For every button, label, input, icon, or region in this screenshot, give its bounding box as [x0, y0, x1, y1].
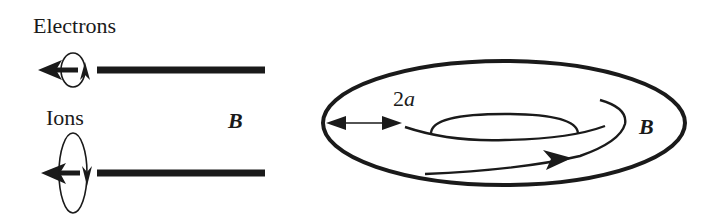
arrow-right-icon: [382, 116, 402, 130]
electron-field-line: [38, 53, 265, 87]
diagram-canvas: Electrons Ions B 2a: [0, 0, 711, 222]
arrow-left-icon: [326, 116, 346, 130]
minor-radius-dimension: 2a: [326, 86, 415, 130]
field-direction-arrow-icon: [543, 150, 572, 170]
torus-hole-upper-arc: [431, 114, 578, 133]
field-label-torus: B: [638, 114, 654, 139]
ion-field-line: [41, 133, 265, 213]
ions-label: Ions: [46, 105, 84, 130]
minor-radius-label: 2a: [393, 86, 415, 111]
left-panel: Electrons Ions B: [33, 13, 265, 213]
field-label-left: B: [227, 108, 243, 133]
torus-panel: 2a B: [323, 61, 685, 185]
minor-radius-label-number: 2: [393, 86, 404, 111]
electrons-label: Electrons: [33, 13, 116, 38]
minor-radius-label-variable: a: [404, 86, 415, 111]
gyration-arrow-up-icon: [80, 62, 90, 80]
